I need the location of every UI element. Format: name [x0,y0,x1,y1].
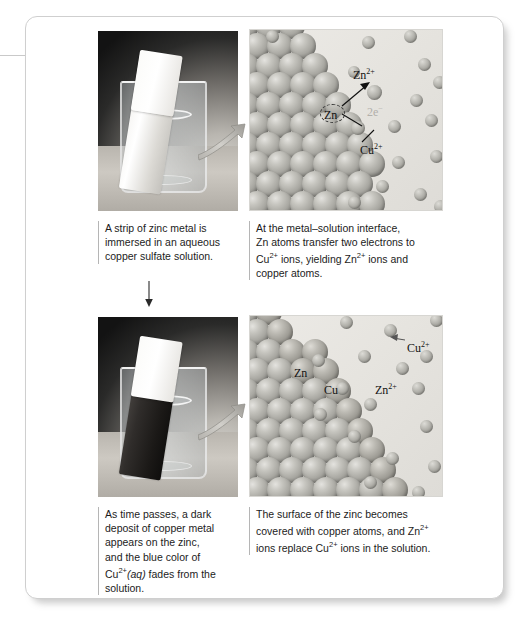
zinc-ion [396,362,409,375]
zinc-ion [412,486,425,498]
zinc-ion [430,315,443,327]
copper-ion [433,76,444,89]
caption-line: immersed in an aqueous [105,235,238,249]
zn-atom-highlight-circle [320,104,345,123]
caption-line: At the metal–solution interface, [256,221,445,235]
caption-top-right: At the metal–solution interface, Zn atom… [249,221,445,280]
zinc-ion [364,476,377,489]
zinc-ion [358,350,371,363]
caption-line: covered with copper atoms, and Zn2+ [256,521,445,538]
caption-line: Cu2+ ions, yielding Zn2+ ions and [256,249,445,266]
downward-progression-arrow [138,281,160,309]
copper-atom [382,477,408,497]
zinc-ion [367,85,382,100]
formula-element: Cu [105,567,118,579]
caption-text: ions replace Cu [256,541,329,553]
zinc-ion [348,430,361,443]
formula-charge: 2+ [329,540,338,549]
zinc-ion [386,452,399,465]
caption-line: appears on the zinc, [105,535,238,549]
copper-ion [351,121,365,135]
diagram-label: 2e− [367,105,383,118]
copper-ion [388,120,401,133]
zinc-ion [420,420,433,433]
copper-ion [348,196,361,209]
zinc-ion [364,398,377,411]
copper-ion [266,30,279,43]
formula-charge: 2+ [269,251,278,260]
connector-arrow-bottom [198,392,264,448]
caption-line: solution. [105,581,238,595]
figure-page: Zn2+Zn2e−Cu2+ ZnCuZn2+Cu2+ [0,0,529,617]
caption-bottom-left: As time passes, a dark deposit of copper… [98,507,238,595]
copper-ion [434,200,444,212]
caption-line: ions replace Cu2+ ions in the solution. [256,538,445,555]
zinc-ion [412,382,425,395]
zinc-ion [384,324,397,337]
copper-ion [410,94,423,107]
copper-ion [404,30,417,43]
caption-bottom-right: The surface of the zinc becomes covered … [249,507,445,555]
formula-element: Cu [256,253,269,265]
zinc-atom [336,477,362,497]
bottom-right-atomic-diagram: ZnCuZn2+Cu2+ [249,315,443,497]
diagram-label: Cu [324,384,338,396]
diagram-label: Cu2+ [407,341,430,354]
caption-line: Zn atoms transfer two electrons to [256,235,445,249]
connector-arrow-top [198,112,264,168]
zinc-atom [359,191,385,211]
formula-charge: 2+ [420,523,429,532]
caption-line: copper sulfate solution. [105,249,238,263]
zinc-ion [314,408,327,421]
copper-ion [418,58,431,71]
diagram-label: Zn [294,367,307,379]
top-right-atomic-diagram: Zn2+Zn2e−Cu2+ [249,29,443,211]
caption-line: As time passes, a dark [105,507,238,521]
caption-line: and the blue color of [105,550,238,564]
copper-ion [376,180,389,193]
diagram-label: Zn2+ [353,68,375,81]
caption-line: A strip of zinc metal is [105,221,238,235]
caption-line: deposit of copper metal [105,521,238,535]
caption-line: The surface of the zinc becomes [256,507,445,521]
caption-line: copper atoms. [256,266,445,280]
diagram-label: Zn2+ [375,383,397,396]
copper-ion [430,150,443,163]
caption-text: ions and [365,253,408,265]
zinc-ion [428,460,441,473]
caption-line: Cu2+(aq) fades from the [105,564,238,581]
formula-state: (aq) [127,567,146,579]
caption-text: fades from the [146,567,216,579]
zinc-ion [340,316,353,329]
formula-charge: 2+ [118,566,127,575]
caption-text: ions in the solution. [338,541,431,553]
caption-top-left: A strip of zinc metal is immersed in an … [98,221,238,264]
copper-ion [392,156,405,169]
copper-ion [362,36,375,49]
copper-ion [425,114,438,127]
caption-text: covered with copper atoms, and Zn [256,525,420,537]
copper-ion [414,188,427,201]
caption-text: ions, yielding Zn [278,253,357,265]
zinc-ion [312,354,325,367]
diagram-label: Cu2+ [360,143,383,156]
